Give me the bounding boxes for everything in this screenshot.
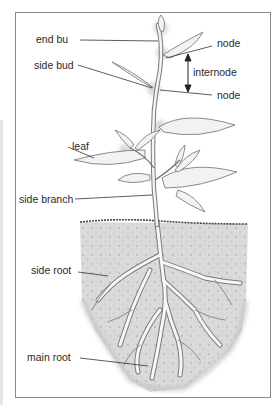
label-side-root: side root [31, 264, 71, 276]
label-node-bottom: node [217, 89, 240, 101]
label-leaf: leaf [72, 140, 89, 152]
internode-arrow [185, 54, 191, 92]
label-main-root: main root [27, 351, 71, 363]
label-side-bud: side bud [34, 59, 74, 71]
label-end-bud: end bu [36, 33, 68, 45]
label-node-top: node [217, 37, 240, 49]
label-internode: internode [193, 66, 237, 78]
label-side-branch: side branch [19, 193, 73, 205]
